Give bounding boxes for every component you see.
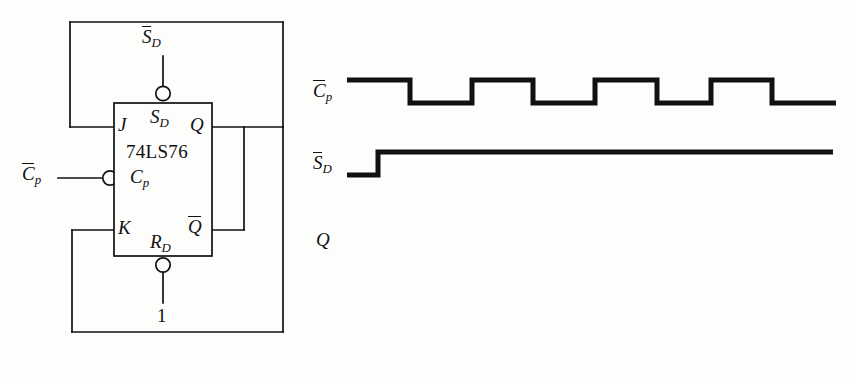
- pin-label-clock: Cp: [130, 166, 149, 191]
- overbar: [142, 26, 151, 27]
- waveform-clock: [347, 80, 836, 103]
- set-bubble-icon: [156, 86, 170, 100]
- pin-label-rd: RD: [150, 231, 171, 256]
- overbar: [313, 152, 322, 153]
- pin-label-qbar: Q: [188, 216, 202, 238]
- figure-canvas: Cp SD 1 J K SD RD Cp Q Q 74LS76 Cp SD Q: [0, 0, 850, 382]
- pin-label-sd: SD: [150, 106, 169, 131]
- timing-diagram: [347, 80, 836, 175]
- set-input-label: SD: [142, 26, 161, 51]
- pin-label-k: K: [118, 217, 131, 239]
- clock-input-label: Cp: [22, 163, 41, 188]
- figure-svg: [0, 0, 850, 382]
- pin-label-j: J: [118, 114, 126, 136]
- overbar: [188, 216, 201, 217]
- reset-bubble-icon: [156, 258, 170, 272]
- chip-part-number: 74LS76: [126, 141, 188, 163]
- overbar: [22, 163, 34, 164]
- timing-label-clock: Cp: [313, 80, 332, 105]
- reset-constant-label: 1: [157, 305, 167, 327]
- waveform-set: [347, 152, 833, 175]
- overbar: [313, 80, 325, 81]
- circuit-diagram: [58, 22, 283, 332]
- timing-label-q: Q: [316, 229, 330, 251]
- timing-label-set: SD: [313, 152, 332, 177]
- pin-label-q: Q: [190, 114, 204, 136]
